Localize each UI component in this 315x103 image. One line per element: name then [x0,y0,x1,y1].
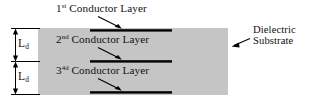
conductor-layer-2-label: 2nd Conductor Layer [56,34,149,46]
conductor-2-label-text: Conductor Layer [69,33,150,45]
figure-canvas: 1st Conductor Layer 2nd Conductor Layer … [0,0,315,103]
dielectric-substrate-label-line1: Dielectric [253,24,296,35]
conductor-layer-3-label: 34d Conductor Layer [56,65,149,77]
leader-arrow-dielectric-substrate [232,39,251,48]
conductor-1-label-text: Conductor Layer [66,2,147,14]
dielectric-substrate-label: Dielectric Substrate [253,24,296,46]
conductor-bar-2 [90,60,172,62]
dielectric-substrate-label-line2: Substrate [253,35,296,46]
dimension-label-lower: Ld [18,70,29,83]
dimension-lower-subscript: d [25,75,29,84]
dimension-upper-subscript: d [25,42,29,51]
conductor-3-ordinal-suffix: 4d [62,64,69,72]
figure-vector-layer [0,0,315,103]
leader-arrow-conductor-1 [98,17,122,29]
conductor-2-ordinal-suffix: nd [62,33,69,41]
dimension-label-upper: Ld [18,37,29,50]
conductor-bar-3 [90,91,172,93]
conductor-layer-1-label: 1st Conductor Layer [56,3,147,15]
conductor-bar-1 [90,29,172,31]
conductor-3-label-text: Conductor Layer [69,64,150,76]
